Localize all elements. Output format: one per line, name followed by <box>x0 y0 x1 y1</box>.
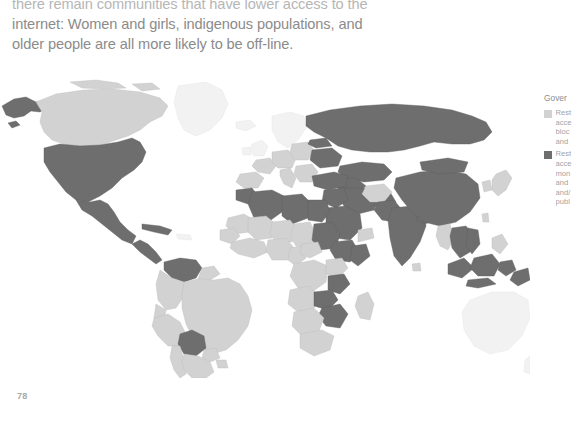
region-korea <box>482 180 492 192</box>
legend-entry-restricted-monitoring[interactable]: Rest acce mon and and/ publ <box>544 149 577 207</box>
world-map-figure: .nd { fill:#f2f2f2; stroke:#e3e3e3; stro… <box>0 78 530 378</box>
legend-label-dark-line-1: Rest <box>556 149 572 159</box>
world-choropleth-map: .nd { fill:#f2f2f2; stroke:#e3e3e3; stro… <box>0 78 530 378</box>
body-line-1: there remain communities that have lower… <box>12 0 402 14</box>
region-taiwan <box>482 213 489 222</box>
legend-swatch-dark <box>544 151 552 159</box>
legend-label-dark-line-2: acce <box>556 159 572 169</box>
legend-label-dark-line-3: mon <box>556 169 572 179</box>
region-ireland <box>242 147 251 155</box>
legend-label-light-line-4: and <box>556 137 572 147</box>
legend-label-light-line-3: bloc <box>556 127 572 137</box>
legend-label-light: Rest acce bloc and <box>556 108 572 146</box>
page-number: 78 <box>17 391 28 401</box>
legend-entry-restricted-blocking[interactable]: Rest acce bloc and <box>544 108 577 146</box>
legend-label-dark: Rest acce mon and and/ publ <box>556 149 572 207</box>
legend-swatch-light <box>544 110 552 118</box>
legend-label-light-line-2: acce <box>556 118 572 128</box>
map-legend: Gover Rest acce bloc and Rest acce mon a… <box>544 93 577 210</box>
legend-label-dark-line-4: and <box>556 178 572 188</box>
legend-label-light-line-1: Rest <box>556 108 572 118</box>
region-uruguay <box>216 360 228 368</box>
legend-label-dark-line-6: publ <box>556 197 572 207</box>
region-hispaniola <box>176 234 192 240</box>
region-sri-lanka <box>412 263 421 271</box>
legend-label-dark-line-5: and/ <box>556 188 572 198</box>
body-line-3: older people are all more likely to be o… <box>12 34 402 54</box>
body-paragraph: there remain communities that have lower… <box>12 0 402 55</box>
body-line-2: internet: Women and girls, indigenous po… <box>12 14 402 34</box>
legend-title: Gover <box>544 93 577 104</box>
